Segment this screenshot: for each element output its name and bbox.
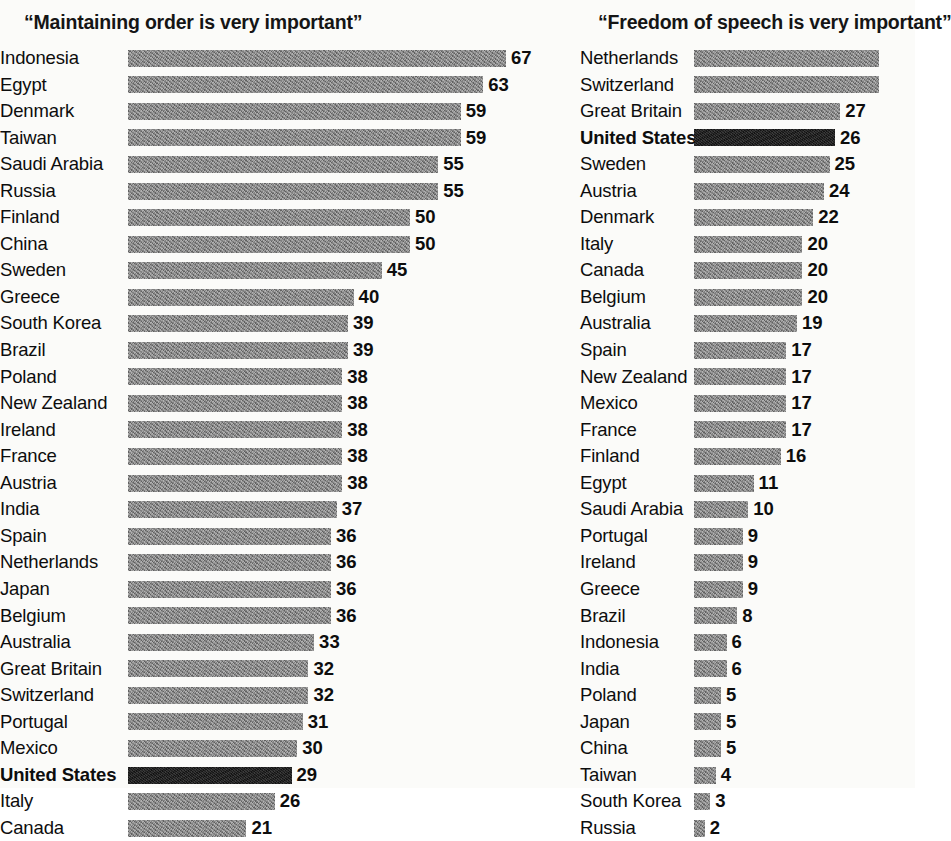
bar-track: 59 [128,98,580,125]
bar [128,129,461,146]
bar-row: Austria24 [580,178,915,205]
bar-value-label: 50 [415,235,436,254]
bar-track: 9 [694,523,915,550]
bar [694,129,835,146]
bar-row: Australia33 [0,629,580,656]
bar-row: China50 [0,231,580,258]
bar-row: Poland38 [0,364,580,391]
bar-value-label: 24 [829,182,850,201]
bar-row-label-maintaining-order: Netherlands [0,553,128,572]
bar-row: France17 [580,417,915,444]
bar-value-label: 21 [251,819,272,838]
bar-row: South Korea39 [0,310,580,337]
bar-track: 38 [128,470,580,497]
bar-row: Japan5 [580,709,915,736]
bar-row: India6 [580,656,915,683]
bar-row-label-freedom-of-speech: Great Britain [580,102,694,121]
bar [694,581,743,598]
bar-track: 40 [128,284,580,311]
bar-value-label: 19 [802,314,823,333]
bar-value-label: 63 [488,76,509,95]
bar-row: China5 [580,735,915,762]
bar-row-label-freedom-of-speech: South Korea [580,792,694,811]
bar-value-label: 2 [710,819,720,838]
bar [694,103,840,120]
bar-track: 20 [694,284,915,311]
bar [694,315,797,332]
bar [128,581,331,598]
bar [128,421,342,438]
bar-row-label-freedom-of-speech: Denmark [580,208,694,227]
bar [128,209,410,226]
bar-row: Brazil39 [0,337,580,364]
bar-value-label: 30 [302,739,323,758]
bar [128,475,342,492]
bar-value-label: 38 [347,474,368,493]
bar [128,183,438,200]
bar [694,395,786,412]
bar-row: Mexico30 [0,735,580,762]
bar-row-label-maintaining-order: Spain [0,527,128,546]
bar-row: Japan36 [0,576,580,603]
bar-row-label-freedom-of-speech: France [580,421,694,440]
bar-track: 2 [694,815,915,841]
bar-row-label-maintaining-order: Taiwan [0,129,128,148]
bar-row-label-freedom-of-speech: Australia [580,314,694,333]
bar-row: Canada21 [0,815,580,841]
bar [694,634,727,651]
bar-value-label: 50 [415,208,436,227]
bar [694,793,710,810]
bar-row-label-freedom-of-speech: Indonesia [580,633,694,652]
bar [128,634,314,651]
bar [694,448,781,465]
bar-track: 32 [128,656,580,683]
bar [128,554,331,571]
bar-row: Belgium20 [580,284,915,311]
bar-row: Finland50 [0,204,580,231]
bar-row: United States26 [580,125,915,152]
bar-value-label: 9 [748,580,758,599]
bar-value-label: 36 [336,527,357,546]
bar-row: Greece40 [0,284,580,311]
bar-value-label: 38 [347,421,368,440]
bar-track: 20 [694,231,915,258]
bar-row: Italy20 [580,231,915,258]
bar-value-label: 22 [818,208,839,227]
bar-value-label: 11 [759,474,779,493]
bar-row-label-freedom-of-speech: Belgium [580,288,694,307]
bar-track: 17 [694,390,915,417]
bar-value-label: 9 [748,553,758,572]
bar-row: Netherlands [580,45,915,72]
bar-track: 8 [694,602,915,629]
bar [128,820,246,837]
bar-track: 33 [128,629,580,656]
bar-row: Brazil8 [580,602,915,629]
bar-row-label-maintaining-order: Switzerland [0,686,128,705]
bar-row: Indonesia67 [0,45,580,72]
bar-row-label-freedom-of-speech: Italy [580,235,694,254]
bar-row-label-freedom-of-speech: China [580,739,694,758]
bar [128,262,382,279]
bar [694,607,737,624]
bar-value-label: 32 [313,660,334,679]
bar-value-label: 20 [807,261,828,280]
bar-track: 38 [128,417,580,444]
bar-value-label: 36 [336,553,357,572]
bar [694,820,705,837]
bar-track: 26 [128,788,580,815]
bar [128,660,308,677]
bar-track: 26 [694,125,915,152]
bar-value-label: 5 [726,686,736,705]
bar-track: 36 [128,602,580,629]
bar-value-label: 37 [342,500,363,519]
bar-value-label: 5 [726,713,736,732]
bar-track: 17 [694,337,915,364]
bar-value-label: 4 [721,766,731,785]
bar-row: Great Britain27 [580,98,915,125]
bar-row: Mexico17 [580,390,915,417]
bar-track: 45 [128,257,580,284]
bar-track: 38 [128,443,580,470]
bar [128,103,461,120]
bar-row: Finland16 [580,443,915,470]
bar [694,475,754,492]
